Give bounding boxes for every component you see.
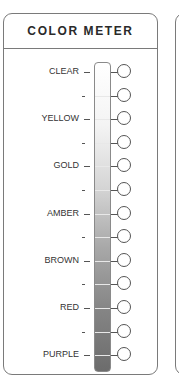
meter-level-row: - (4, 135, 159, 151)
level-checkbox-circle[interactable] (117, 347, 131, 361)
tube-band-line (95, 119, 110, 120)
left-tick (84, 166, 90, 167)
level-checkbox-circle[interactable] (117, 300, 131, 314)
meter-level-row: BROWN (4, 253, 159, 269)
left-tick (84, 261, 90, 262)
meter-level-row: - (4, 182, 159, 198)
level-checkbox-circle[interactable] (117, 158, 131, 172)
left-tick (82, 190, 85, 191)
tube-band-line (95, 190, 110, 191)
level-checkbox-circle[interactable] (117, 88, 131, 102)
level-checkbox-circle[interactable] (117, 111, 131, 125)
left-tick (84, 214, 90, 215)
meter-level-row: AMBER (4, 206, 159, 222)
left-tick (82, 143, 85, 144)
tube-band-line (95, 166, 110, 167)
level-checkbox-circle[interactable] (117, 135, 131, 149)
meter-level-row: - (4, 276, 159, 292)
left-tick (84, 72, 90, 73)
meter-level-row: - (4, 229, 159, 245)
meter-level-row: PURPLE (4, 347, 159, 363)
level-checkbox-circle[interactable] (117, 229, 131, 243)
tube-band-line (95, 237, 110, 238)
left-tick (82, 332, 85, 333)
left-tick (84, 355, 90, 356)
level-label: BROWN (45, 255, 80, 265)
level-checkbox-circle[interactable] (117, 64, 131, 78)
tube-band-line (95, 261, 110, 262)
meter-level-row: - (4, 324, 159, 340)
panel-header: COLOR METER (4, 14, 157, 49)
level-label: RED (60, 302, 79, 312)
meter-level-row: RED (4, 300, 159, 316)
meter-level-row: - (4, 88, 159, 104)
level-label: AMBER (47, 208, 79, 218)
level-checkbox-circle[interactable] (117, 253, 131, 267)
left-tick (82, 284, 85, 285)
left-tick (82, 96, 85, 97)
level-checkbox-circle[interactable] (117, 206, 131, 220)
level-label: GOLD (53, 160, 79, 170)
level-label: YELLOW (41, 113, 79, 123)
level-checkbox-circle[interactable] (117, 324, 131, 338)
level-label: PURPLE (43, 349, 79, 359)
tube-band-line (95, 96, 110, 97)
level-label: CLEAR (49, 66, 79, 76)
tube-band-line (95, 284, 110, 285)
tube-band-line (95, 332, 110, 333)
left-tick (84, 119, 90, 120)
left-tick (84, 308, 90, 309)
left-tick (82, 237, 85, 238)
meter-level-row: YELLOW (4, 111, 159, 127)
level-checkbox-circle[interactable] (117, 182, 131, 196)
meter-level-row: GOLD (4, 158, 159, 174)
tube-band-line (95, 143, 110, 144)
color-meter-panel: COLOR METER CLEAR-YELLOW-GOLD-AMBER-BROW… (3, 13, 158, 375)
adjacent-panel (175, 13, 179, 375)
tube-band-line (95, 308, 110, 309)
tube-band-line (95, 214, 110, 215)
meter-level-row: CLEAR (4, 64, 159, 80)
panel-title: COLOR METER (27, 24, 133, 38)
level-checkbox-circle[interactable] (117, 276, 131, 290)
tube-band-line (95, 355, 110, 356)
